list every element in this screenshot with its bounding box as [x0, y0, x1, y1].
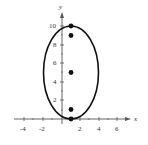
y-axis-label: y — [58, 3, 63, 11]
focus-top-point — [69, 33, 74, 38]
y-tick-label: 4 — [53, 78, 57, 86]
y-axis-arrow-icon — [60, 12, 64, 18]
y-tick-label: 2 — [53, 96, 57, 104]
x-tick-label: 6 — [115, 125, 119, 133]
x-tick-label: 2 — [78, 125, 82, 133]
x-tick-label: -4 — [20, 125, 26, 133]
x-tick-label: 4 — [97, 125, 101, 133]
x-tick-label: -2 — [39, 125, 45, 133]
y-tick-label: 8 — [53, 41, 57, 49]
vertex-bottom-point — [69, 117, 74, 122]
y-tick-label: 6 — [53, 59, 57, 67]
focus-bottom-point — [69, 107, 74, 112]
x-axis-arrow-icon — [125, 117, 131, 121]
y-tick-label: 10 — [49, 22, 57, 30]
x-axis-label: x — [133, 115, 138, 123]
ellipse-diagram: x y -4 -2 2 4 6 2 4 6 8 10 — [0, 0, 148, 145]
vertex-top-point — [69, 24, 74, 29]
center-point — [69, 70, 74, 75]
